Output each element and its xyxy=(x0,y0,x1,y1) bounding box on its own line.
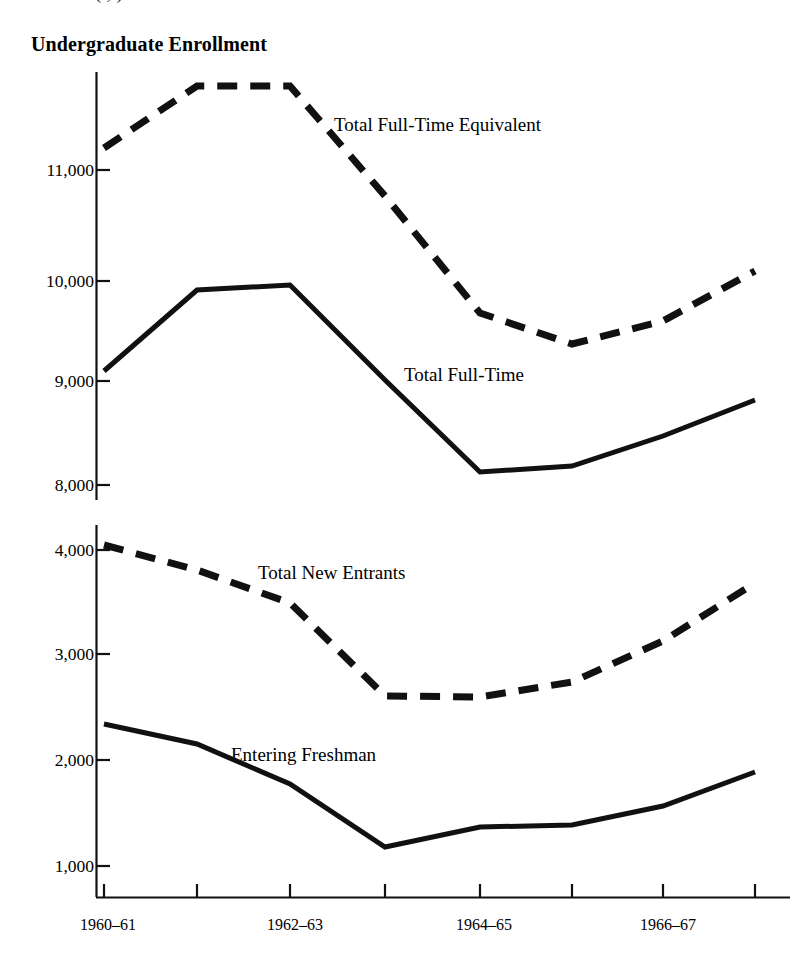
top-panel-axes xyxy=(97,72,111,500)
series-line-total-new-entrants xyxy=(104,545,755,697)
figure-container: ( , ) Undergraduate Enrollment 8,000 9,0… xyxy=(0,0,801,962)
bottom-panel-series xyxy=(104,545,755,847)
chart-plot-area xyxy=(0,0,801,962)
series-line-total-full-time-equivalent xyxy=(104,86,755,344)
top-panel-series xyxy=(104,86,755,472)
series-line-entering-freshman xyxy=(104,724,755,847)
bottom-panel-axes xyxy=(96,525,790,898)
series-line-total-full-time xyxy=(104,285,755,472)
